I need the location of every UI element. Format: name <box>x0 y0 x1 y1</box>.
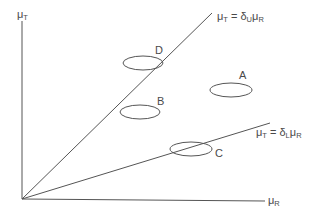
region-a-ellipse <box>210 83 252 97</box>
x-axis <box>22 199 265 201</box>
y-axis-label: μT <box>17 8 28 22</box>
region-c-label: C <box>215 147 223 159</box>
region-d-label: D <box>155 44 163 56</box>
lower-bound-line <box>22 123 270 199</box>
region-d-ellipse <box>123 56 163 70</box>
region-b-ellipse <box>120 105 160 119</box>
x-axis-label: μR <box>268 194 280 208</box>
region-b-label: B <box>157 95 164 107</box>
region-a-label: A <box>239 69 247 81</box>
upper-bound-line <box>22 13 212 199</box>
diagram-canvas: μT μR μT = δUμR μT = δLμR D B A C <box>0 0 312 217</box>
upper-line-label: μT = δUμR <box>217 10 264 24</box>
lower-line-label: μT = δLμR <box>256 126 302 140</box>
region-c-ellipse <box>170 142 212 156</box>
